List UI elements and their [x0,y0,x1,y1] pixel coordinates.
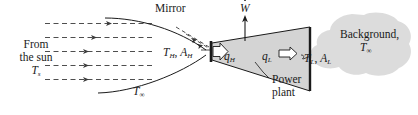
a-h-subscript: H [187,52,192,60]
from-label: From [8,38,64,50]
q-h-subscript: H [230,56,235,64]
t-infinity-mirror-label: T∞ [133,85,145,99]
mirror-label: Mirror [155,2,186,14]
a-l-subscript: L [327,58,331,66]
t-infinity-subscript: ∞ [139,91,144,99]
the-sun-label: the sun [8,51,64,63]
t-s-subscript: s [38,70,41,78]
t-s-label: Ts [8,64,64,78]
background-t-subscript: ∞ [366,47,371,55]
q-l-label: qL [262,50,272,64]
q-l-subscript: L [268,56,272,64]
background-temperature-label: T∞ [360,41,372,55]
background-label: Background, [340,28,399,40]
reflected-ray-1 [176,27,209,47]
th-ah-label: TH, AH [163,46,193,60]
w-dot-symbol: W [240,2,250,14]
power-plant-label-line2: plant [272,86,295,98]
solar-power-plant-diagram: Mirror From the sun Ts T∞ TH, AH TL, AL … [0,0,418,115]
work-label: W [240,2,250,14]
tl-al-label: TL, AL [304,52,331,66]
q-h-label: qH [224,50,235,64]
power-plant-label-line1: Power [272,73,301,85]
mirror-curve-lower [98,55,206,93]
